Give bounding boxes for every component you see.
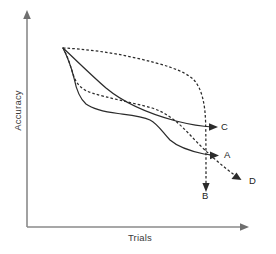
trials-axis xyxy=(27,223,249,231)
curve-a-path xyxy=(63,48,213,155)
endpoint-label-a: A xyxy=(224,149,230,160)
trials-axis-arrowhead xyxy=(240,223,249,231)
y-axis-label: Accuracy xyxy=(12,81,23,141)
x-axis-label: Trials xyxy=(112,232,168,243)
curve-c xyxy=(63,48,218,131)
curve-c-path xyxy=(63,48,212,127)
endpoint-label-c: C xyxy=(221,121,228,132)
plot-canvas xyxy=(0,0,276,254)
accuracy-axis xyxy=(23,10,31,227)
curve-a xyxy=(63,48,219,159)
curve-c-arrowhead xyxy=(209,123,218,131)
accuracy-axis-arrowhead xyxy=(23,10,31,19)
endpoint-label-d: D xyxy=(249,175,256,186)
endpoint-label-b: B xyxy=(202,190,208,201)
learning-curve-figure: Accuracy Trials C A D B xyxy=(0,0,276,254)
